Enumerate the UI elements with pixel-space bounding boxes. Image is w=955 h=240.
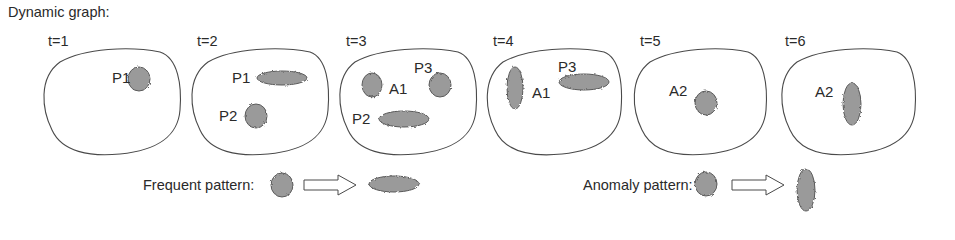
node-label-p1-t1: P1 — [112, 69, 130, 86]
legend-frequent-from-blob — [271, 173, 293, 197]
node-label-p3-t4: P3 — [558, 58, 576, 75]
node-label-a2-t6: A2 — [815, 83, 833, 100]
pattern-blob-p1-flat — [257, 71, 307, 85]
node-label-a2-t5: A2 — [669, 82, 687, 99]
node-label-p2-t2: P2 — [219, 107, 237, 124]
legend-anomaly-from-blob — [695, 172, 717, 196]
pattern-blob-a2-round — [695, 91, 717, 115]
pattern-blob-p2-round — [245, 104, 267, 128]
legend-anomaly-arrow-icon — [732, 175, 784, 195]
legend-frequent-to-blob — [369, 176, 419, 192]
pattern-blob-p3-flat — [559, 74, 609, 90]
graph-outline-t4 — [487, 49, 621, 155]
legend-frequent-arrow-icon — [304, 175, 356, 195]
pattern-blob-a1-tall — [507, 67, 523, 109]
legend-anomaly-label: Anomaly pattern: — [583, 177, 693, 193]
graph-outline-t1 — [44, 49, 181, 155]
graph-outline-t2 — [192, 49, 329, 155]
legend-anomaly-to-blob — [797, 169, 815, 211]
node-label-p2-t3: P2 — [352, 110, 370, 127]
pattern-blob-p3-round — [429, 73, 451, 97]
node-label-a1-t3: A1 — [389, 80, 407, 97]
node-label-p3-t3: P3 — [414, 59, 432, 76]
node-label-a1-t4: A1 — [532, 84, 550, 101]
pattern-blob-a1-round — [362, 73, 382, 97]
pattern-blob-a2-tall — [843, 83, 861, 125]
legend-frequent-label: Frequent pattern: — [143, 177, 254, 193]
pattern-blob-p2-flat — [379, 111, 429, 127]
pattern-blob-p1-round — [128, 67, 150, 91]
node-label-p1-t2: P1 — [232, 69, 250, 86]
graph-outline-t3 — [340, 49, 477, 155]
